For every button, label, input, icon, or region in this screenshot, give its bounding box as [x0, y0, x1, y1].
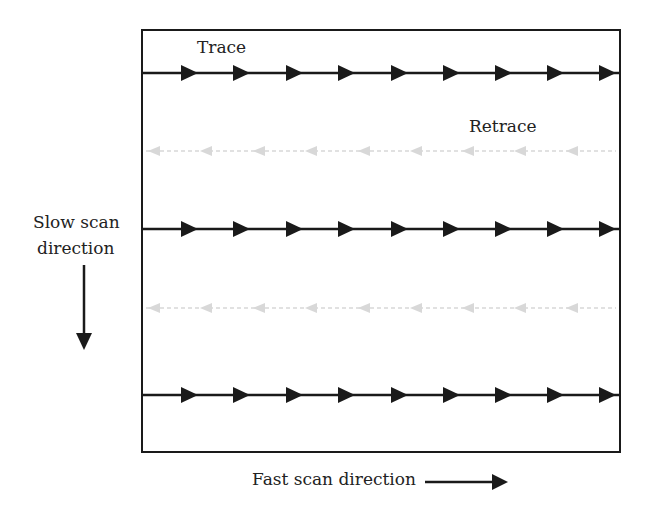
left-arrowhead-icon: [305, 146, 317, 156]
left-arrowhead-icon: [200, 146, 212, 156]
left-arrowhead-icon: [358, 303, 370, 313]
slow-scan-label-1: Slow scan: [33, 212, 120, 232]
right-arrowhead-icon: [495, 221, 512, 237]
left-arrowhead-icon: [253, 303, 265, 313]
right-arrowhead-icon: [547, 65, 564, 81]
right-arrowhead-icon: [391, 65, 408, 81]
right-arrowhead-icon: [443, 387, 460, 403]
left-arrowhead-icon: [148, 303, 160, 313]
slow-scan-label-2: direction: [37, 238, 114, 258]
trace-label: Trace: [197, 37, 246, 57]
right-arrowhead-icon: [286, 221, 303, 237]
fast-scan-label: Fast scan direction: [252, 469, 416, 489]
right-arrowhead-icon: [391, 221, 408, 237]
right-arrowhead-icon: [338, 387, 355, 403]
left-arrowhead-icon: [200, 303, 212, 313]
left-arrowhead-icon: [566, 146, 578, 156]
left-arrowhead-icon: [410, 146, 422, 156]
left-arrowhead-icon: [514, 146, 526, 156]
left-arrowhead-icon: [462, 146, 474, 156]
left-arrowhead-icon: [410, 303, 422, 313]
right-arrowhead-icon: [547, 387, 564, 403]
right-arrowhead-icon: [233, 387, 250, 403]
right-arrowhead-icon: [443, 65, 460, 81]
trace-lines: [142, 65, 620, 403]
slow-scan-arrowhead-icon: [76, 333, 92, 350]
right-arrowhead-icon: [599, 387, 616, 403]
right-arrowhead-icon: [233, 65, 250, 81]
right-arrowhead-icon: [233, 221, 250, 237]
fast-scan-arrowhead-icon: [492, 474, 508, 490]
left-arrowhead-icon: [462, 303, 474, 313]
right-arrowhead-icon: [181, 387, 198, 403]
right-arrowhead-icon: [391, 387, 408, 403]
right-arrowhead-icon: [181, 221, 198, 237]
right-arrowhead-icon: [495, 65, 512, 81]
retrace-label: Retrace: [469, 116, 537, 136]
left-arrowhead-icon: [514, 303, 526, 313]
right-arrowhead-icon: [286, 387, 303, 403]
left-arrowhead-icon: [148, 146, 160, 156]
right-arrowhead-icon: [338, 65, 355, 81]
right-arrowhead-icon: [286, 65, 303, 81]
right-arrowhead-icon: [599, 221, 616, 237]
left-arrowhead-icon: [566, 303, 578, 313]
right-arrowhead-icon: [599, 65, 616, 81]
right-arrowhead-icon: [181, 65, 198, 81]
right-arrowhead-icon: [547, 221, 564, 237]
right-arrowhead-icon: [495, 387, 512, 403]
left-arrowhead-icon: [358, 146, 370, 156]
left-arrowhead-icon: [305, 303, 317, 313]
right-arrowhead-icon: [443, 221, 460, 237]
right-arrowhead-icon: [338, 221, 355, 237]
left-arrowhead-icon: [253, 146, 265, 156]
